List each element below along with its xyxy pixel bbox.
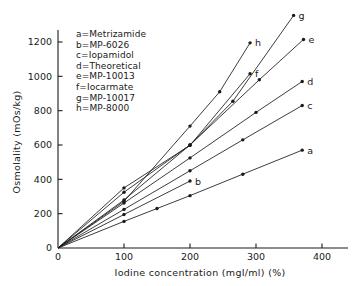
y-tick-label: 1200 bbox=[28, 36, 52, 47]
series-point-g bbox=[231, 100, 234, 103]
x-tick-label: 0 bbox=[55, 251, 61, 262]
x-tick-label: 100 bbox=[115, 251, 133, 262]
legend-entry: f=Iocarmate bbox=[76, 82, 134, 92]
series-end-label-e: e bbox=[309, 34, 315, 45]
series-point-h bbox=[218, 90, 221, 93]
x-tick-label: 300 bbox=[247, 251, 265, 262]
series-point-e bbox=[122, 191, 125, 194]
series-point-h bbox=[248, 41, 251, 44]
chart-canvas: 0200400600800100012000100200300400 abcde… bbox=[0, 0, 354, 286]
osmolality-chart-figure: 0200400600800100012000100200300400 abcde… bbox=[0, 0, 354, 286]
legend-entry: c=Iopamidol bbox=[76, 50, 134, 60]
series-point-a bbox=[155, 207, 158, 210]
series-point-a bbox=[122, 220, 125, 223]
legend-entry: g=MP-10017 bbox=[76, 93, 135, 103]
series-end-label-f: f bbox=[255, 68, 259, 79]
series-point-c bbox=[122, 208, 125, 211]
y-axis-title: Osmolality (mOs/kg) bbox=[11, 90, 22, 193]
series-end-labels: abcdefgh bbox=[195, 10, 315, 187]
series-end-label-d: d bbox=[307, 76, 313, 87]
x-axis-title: Iodine concentration (mgI/ml) (%) bbox=[115, 267, 286, 278]
y-tick-label: 600 bbox=[34, 139, 52, 150]
legend: a=Metrizamideb=MP-6026c=Iopamidold=Theor… bbox=[76, 29, 147, 113]
legend-entry: d=Theoretical bbox=[76, 61, 141, 71]
series-point-b bbox=[122, 213, 125, 216]
y-tick-label: 1000 bbox=[28, 71, 52, 82]
series-point-h bbox=[188, 124, 191, 127]
y-tick-label: 200 bbox=[34, 208, 52, 219]
x-tick-label: 200 bbox=[181, 251, 199, 262]
legend-entry: h=MP-8000 bbox=[76, 103, 129, 113]
series-point-g bbox=[292, 14, 295, 17]
y-tick-label: 800 bbox=[34, 105, 52, 116]
series-end-label-h: h bbox=[255, 37, 261, 48]
series-end-label-a: a bbox=[307, 145, 313, 156]
series-point-f bbox=[122, 186, 125, 189]
series-point-c bbox=[241, 138, 244, 141]
series-end-label-g: g bbox=[299, 10, 305, 21]
series-point-d bbox=[188, 156, 191, 159]
series-point-g bbox=[188, 143, 191, 146]
series-line-c bbox=[58, 106, 302, 248]
series-point-a bbox=[188, 194, 191, 197]
y-tick-label: 0 bbox=[46, 242, 52, 253]
series-point-d bbox=[301, 80, 304, 83]
y-tick-label: 400 bbox=[34, 174, 52, 185]
series-end-label-c: c bbox=[307, 100, 312, 111]
legend-entry: e=MP-10013 bbox=[76, 71, 135, 81]
legend-entry: a=Metrizamide bbox=[76, 29, 147, 39]
series-point-h bbox=[122, 200, 125, 203]
series-point-c bbox=[301, 104, 304, 107]
series-point-a bbox=[301, 148, 304, 151]
series-point-d bbox=[254, 111, 257, 114]
legend-entry: b=MP-6026 bbox=[76, 40, 129, 50]
axis-titles: Osmolality (mOs/kg)Iodine concentration … bbox=[11, 90, 285, 278]
series-point-c bbox=[188, 169, 191, 172]
series-point-b bbox=[188, 179, 191, 182]
series-end-label-b: b bbox=[195, 176, 201, 187]
series-point-e bbox=[302, 38, 305, 41]
series-point-a bbox=[241, 172, 244, 175]
x-tick-label: 400 bbox=[313, 251, 331, 262]
